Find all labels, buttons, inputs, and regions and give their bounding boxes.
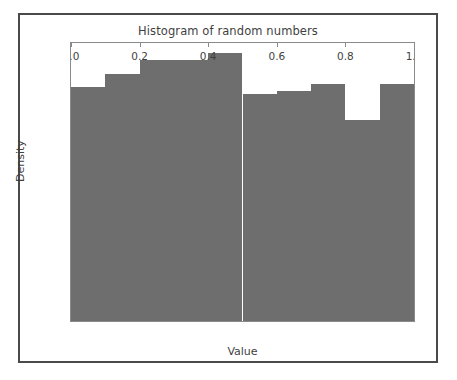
chart-title: Histogram of random numbers: [20, 24, 436, 38]
histogram-bar: [140, 60, 174, 321]
x-tick-label: 0.4: [200, 50, 217, 62]
y-tick-mark: [70, 273, 71, 274]
x-tick-label: 0.8: [337, 50, 354, 62]
histogram-bar: [380, 84, 414, 321]
y-tick-mark: [70, 176, 71, 177]
y-axis-label: Density: [14, 140, 27, 182]
histogram-bar: [71, 87, 105, 321]
histogram-bar: [311, 84, 345, 321]
x-tick-label: 0.2: [131, 50, 148, 62]
y-tick-mark: [70, 128, 71, 129]
x-tick-mark: [140, 43, 141, 47]
y-tick-mark: [70, 321, 71, 322]
x-tick-mark: [208, 43, 209, 47]
figure-frame: Histogram of random numbers Density 0204…: [18, 13, 438, 363]
x-tick-mark: [277, 43, 278, 47]
x-tick-mark: [414, 43, 415, 47]
histogram-bar: [345, 120, 379, 321]
x-tick-label: 0.0: [70, 50, 79, 62]
x-tick-mark: [345, 43, 346, 47]
x-tick-label: 1.0: [406, 50, 415, 62]
histogram-bar: [105, 74, 139, 321]
x-axis-label: Value: [70, 345, 415, 358]
histogram-bar: [277, 91, 311, 321]
histogram-bar: [243, 94, 277, 321]
histogram-bar: [208, 53, 242, 321]
x-tick-mark: [71, 43, 72, 47]
y-tick-mark: [70, 224, 71, 225]
plot-area: 020406080100 0.00.20.40.60.81.0: [70, 42, 415, 322]
x-tick-label: 0.6: [268, 50, 285, 62]
histogram-bar: [174, 60, 208, 321]
histogram-bars: [71, 43, 414, 321]
y-tick-mark: [70, 79, 71, 80]
